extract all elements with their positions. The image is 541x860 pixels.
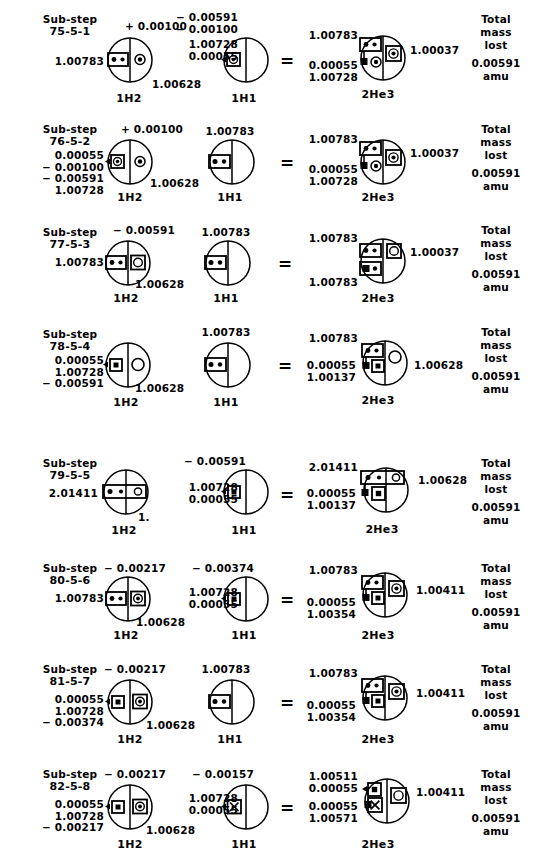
atom-1h1 (222, 575, 270, 623)
atom-1h1 (208, 678, 256, 726)
substep-row: Sub-step 82-5-8 0.00055 1.00728 − 0.0021… (0, 755, 541, 860)
left-southeast-value: 1.00628 (152, 79, 201, 91)
total-label-3: lost (458, 40, 534, 52)
mid-element-label: 1H1 (218, 525, 270, 537)
mid-element-label: 1H1 (218, 839, 270, 851)
diagram-sheet: Sub-step 75-5-1 1.00783 + 0.00100 1.0062… (0, 0, 541, 860)
total-label-1: Total (458, 563, 534, 575)
substep-row: Sub-step 75-5-1 1.00783 + 0.00100 1.0062… (0, 0, 541, 110)
atom-1h2 (106, 36, 154, 84)
right-southwest-value: 0.00055 1.00571 (288, 801, 358, 824)
right-northwest-value: 1.00783 (300, 134, 358, 146)
right-element-label: 2He3 (352, 839, 404, 851)
equals-sign: = (278, 257, 292, 271)
right-east-value: 1.00037 (410, 148, 459, 160)
left-top-value: + 0.00100 (121, 124, 183, 136)
left-element-label: 1H2 (103, 93, 155, 105)
total-value: 0.00591 (458, 502, 534, 514)
substep-row: Sub-step 76-5-2 0.00055 − 0.00100 − 0.00… (0, 110, 541, 215)
right-east-value: 1.00037 (410, 45, 459, 57)
total-label-1: Total (458, 327, 534, 339)
total-unit: amu (458, 620, 534, 632)
atom-2he3 (353, 32, 409, 88)
total-label-1: Total (458, 14, 534, 26)
right-element-label: 2He3 (352, 192, 404, 204)
right-northwest-value: 2.01411 (300, 462, 358, 474)
left-element-label: 1H2 (98, 525, 150, 537)
left-west-value: 2.01411 (6, 488, 98, 500)
right-element-label: 2He3 (352, 734, 404, 746)
left-element-label: 1H2 (100, 397, 152, 409)
right-element-label: 2He3 (352, 630, 404, 642)
left-element-label: 1H2 (104, 734, 156, 746)
left-west-value: 1.00783 (6, 56, 104, 68)
total-unit: amu (458, 515, 534, 527)
right-northwest-value: 1.00511 0.00055 (288, 771, 358, 794)
atom-1h1 (222, 783, 270, 831)
left-element-label: 1H2 (100, 293, 152, 305)
left-west-value: 0.00055 1.00728 − 0.00591 (2, 355, 104, 390)
atom-1h2 (100, 468, 152, 520)
atom-1h1 (222, 36, 270, 84)
atom-1h1 (222, 468, 270, 516)
atom-1h2 (104, 341, 152, 389)
right-southwest-value: 1.00783 (294, 277, 358, 289)
total-label-2: mass (458, 576, 534, 588)
atom-1h2 (104, 239, 152, 287)
atom-1h1 (204, 341, 252, 389)
right-element-label: 2He3 (352, 293, 404, 305)
atom-2he3 (353, 670, 411, 728)
right-southwest-value: 0.00055 1.00728 (288, 164, 358, 187)
total-label-3: lost (458, 353, 534, 365)
total-unit: amu (458, 826, 534, 838)
total-label-1: Total (458, 769, 534, 781)
left-top-value: − 0.00217 (104, 769, 166, 781)
mid-top-value: 1.00783 (186, 227, 266, 239)
total-value: 0.00591 (458, 607, 534, 619)
total-label-2: mass (458, 27, 534, 39)
atom-2he3 (353, 567, 411, 625)
total-label-1: Total (458, 664, 534, 676)
total-label-3: lost (458, 795, 534, 807)
total-value: 0.00591 (458, 269, 534, 281)
mid-top-value: 1.00783 (186, 664, 266, 676)
mid-element-label: 1H1 (200, 397, 252, 409)
right-east-value: 1.00628 (414, 360, 463, 372)
right-element-label: 2He3 (352, 395, 404, 407)
total-label-2: mass (458, 340, 534, 352)
right-southwest-value: 0.00055 1.00354 (288, 597, 356, 620)
mid-element-label: 1H1 (218, 93, 270, 105)
substep-id: 75-5-1 (22, 26, 118, 38)
right-southwest-value: 0.00055 1.00137 (288, 488, 356, 511)
total-value: 0.00591 (458, 58, 534, 70)
substep-word: Sub-step (22, 227, 118, 239)
left-element-label: 1H2 (104, 839, 156, 851)
left-top-value: − 0.00217 (104, 664, 166, 676)
substep-id: 81-5-7 (22, 676, 118, 688)
atom-1h2 (104, 575, 152, 623)
total-label-2: mass (458, 238, 534, 250)
right-east-value: 1.00037 (410, 247, 459, 259)
substep-word: Sub-step (22, 14, 118, 26)
total-label-3: lost (458, 251, 534, 263)
left-west-value: 0.00055 1.00728 − 0.00374 (2, 694, 104, 729)
total-unit: amu (458, 71, 534, 83)
total-value: 0.00591 (458, 371, 534, 383)
atom-2he3 (357, 773, 415, 831)
substep-row: Sub-step 81-5-7 0.00055 1.00728 − 0.0037… (0, 650, 541, 755)
mid-top-value: − 0.00157 (170, 769, 254, 781)
atom-2he3 (353, 335, 411, 393)
atom-1h1 (204, 239, 252, 287)
mid-element-label: 1H1 (200, 293, 252, 305)
mid-top-value: − 0.00374 (170, 563, 254, 575)
total-unit: amu (458, 282, 534, 294)
substep-word: Sub-step (22, 329, 118, 341)
right-northwest-value: 1.00783 (300, 333, 358, 345)
left-west-value: 0.00055 1.00728 − 0.00217 (2, 799, 104, 834)
substep-word: Sub-step (22, 124, 118, 136)
total-value: 0.00591 (458, 168, 534, 180)
mid-element-label: 1H1 (204, 734, 256, 746)
total-label-2: mass (458, 137, 534, 149)
substep-row: Sub-step 80-5-6 1.00783 − 0.00217 1.0062… (0, 545, 541, 650)
total-label-1: Total (458, 124, 534, 136)
